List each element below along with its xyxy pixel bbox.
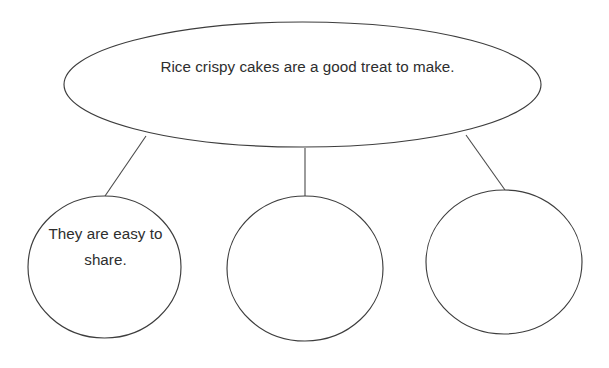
connector-line-right bbox=[466, 135, 505, 190]
branch-circle-2[interactable] bbox=[227, 196, 383, 341]
concept-map-canvas: Rice crispy cakes are a good treat to ma… bbox=[0, 0, 609, 368]
main-idea-ellipse[interactable] bbox=[64, 22, 541, 147]
branch-circle-3[interactable] bbox=[426, 190, 582, 334]
branch-circle-1[interactable] bbox=[28, 196, 181, 338]
diagram-shapes bbox=[0, 0, 609, 368]
connector-line-left bbox=[105, 136, 146, 196]
